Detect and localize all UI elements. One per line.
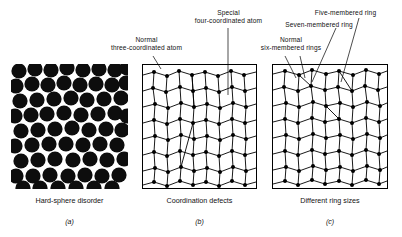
panel-c-ring-sizes (272, 64, 388, 189)
annotation-normal-three-coordinated-atom: Normal three-coordinated atom (96, 36, 197, 51)
annotation-five-membered-ring: Five-membered ring (289, 9, 402, 17)
annotation-line-2: three-coordinated atom (96, 44, 197, 52)
annotation-line-1: Normal (135, 36, 157, 43)
subcaption-panel-a: (a) (4, 218, 135, 225)
annotation-line-1: Special (217, 9, 240, 16)
caption-panel-c: Different ring sizes (268, 196, 392, 205)
annotation-line-2: six-membered rings (245, 44, 337, 52)
panel-a-hard-sphere (11, 64, 128, 189)
subcaption-panel-b: (b) (137, 218, 262, 225)
caption-panel-b: Coordination defects (137, 196, 262, 205)
annotation-line-1: Five-membered ring (315, 9, 376, 16)
annotation-seven-membered-ring: Seven-membered ring (259, 21, 379, 29)
figure-root: Normal three-coordinated atom Special fo… (0, 0, 402, 237)
panel-c-graphic (273, 65, 387, 188)
panel-b-graphic (143, 65, 256, 188)
annotation-line-1: Normal (280, 36, 302, 43)
caption-panel-a: Hard-sphere disorder (4, 196, 135, 205)
panel-b-coordination-defects (142, 64, 257, 189)
annotation-normal-six-membered-rings: Normal six-membered rings (245, 36, 337, 51)
subcaption-panel-c: (c) (268, 218, 392, 225)
panel-a-graphic (11, 64, 128, 189)
annotation-line-1: Seven-membered ring (285, 21, 353, 28)
